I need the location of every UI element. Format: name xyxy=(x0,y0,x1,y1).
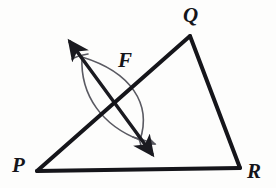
triangle-side-pr xyxy=(37,168,240,171)
vertex-label-q: Q xyxy=(183,5,198,26)
perpendicular-bisector-line xyxy=(70,42,152,154)
point-label-f: F xyxy=(118,50,132,71)
vertex-label-r: R xyxy=(247,161,261,182)
construction-diagram xyxy=(0,0,276,188)
triangle-side-qr xyxy=(190,36,240,168)
triangle-pqr xyxy=(37,36,240,171)
vertex-label-p: P xyxy=(12,155,25,176)
triangle-side-pq xyxy=(37,36,190,171)
geometry-figure-canvas: P Q R F xyxy=(0,0,276,188)
